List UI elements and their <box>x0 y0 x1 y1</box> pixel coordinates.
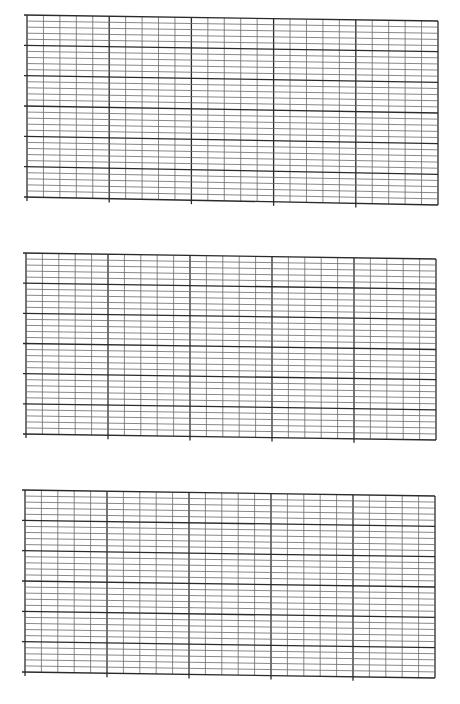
grid-2 <box>23 253 436 443</box>
grid-3 <box>22 490 435 681</box>
graph-paper-page <box>0 0 460 704</box>
grid-1 <box>24 15 438 207</box>
graph-paper-grids <box>0 0 460 704</box>
